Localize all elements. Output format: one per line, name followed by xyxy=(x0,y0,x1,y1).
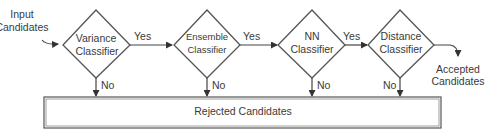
input-label-line2: Candidates xyxy=(0,21,49,33)
no-label-3: No xyxy=(317,79,331,91)
no-label-2: No xyxy=(212,79,226,91)
nn-label-line2: Classifier xyxy=(290,43,334,55)
yes-label-2: Yes xyxy=(243,30,260,42)
ensemble-label-line2: Classifier xyxy=(187,44,226,55)
no-label-4: No xyxy=(383,79,397,91)
variance-classifier-node xyxy=(63,10,130,78)
no-label-1: No xyxy=(101,79,115,91)
distance-label-line2: Classifier xyxy=(379,43,423,55)
input-label-line1: Input xyxy=(10,8,33,20)
yes-label-1: Yes xyxy=(134,30,151,42)
distance-label-line1: Distance xyxy=(381,30,422,42)
accepted-label-line1: Accepted xyxy=(436,63,480,75)
accepted-arrow xyxy=(434,45,458,56)
ensemble-label-line1: Ensemble xyxy=(186,31,228,42)
nn-label-line1: NN xyxy=(304,30,319,42)
variance-label-line1: Variance xyxy=(76,32,117,44)
rejected-candidates-label: Rejected Candidates xyxy=(194,105,291,117)
flowchart: Input Candidates Variance Classifier Yes… xyxy=(0,0,498,139)
yes-label-3: Yes xyxy=(343,30,360,42)
variance-label-line2: Classifier xyxy=(75,45,119,57)
accepted-label-line2: Candidates xyxy=(431,75,484,87)
input-arrow xyxy=(42,40,58,44)
